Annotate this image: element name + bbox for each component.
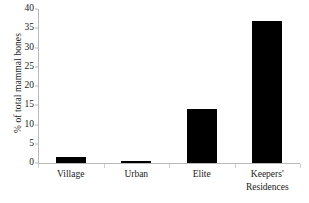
y-tick-label: 5 (29, 139, 34, 149)
bar (252, 21, 282, 163)
bar-slot (104, 9, 170, 163)
bar-series (38, 9, 300, 164)
x-tick-mark (300, 164, 301, 168)
y-tick-label: 10 (25, 120, 35, 130)
y-tick-label: 15 (25, 101, 35, 111)
x-tick-label-line: Village (38, 168, 104, 181)
bar (187, 109, 217, 163)
x-tick-label-line: Urban (104, 168, 170, 181)
y-axis-title: % of total mammal bones (13, 13, 23, 153)
x-axis-labels: VillageUrbanEliteKeepers'Residences (38, 168, 300, 202)
x-tick-label-line: Elite (169, 168, 235, 181)
bar (56, 157, 86, 163)
bar (121, 161, 151, 163)
y-tick-label: 20 (25, 81, 35, 91)
bar-slot (38, 9, 104, 163)
y-tick-label: 0 (29, 158, 34, 168)
x-tick-label-line: Keepers' (235, 168, 301, 181)
bar-slot (235, 9, 301, 163)
y-tick-label: 35 (25, 24, 35, 34)
x-tick-label-line: Residences (235, 181, 301, 194)
x-tick-label: Keepers'Residences (235, 168, 301, 193)
y-tick-label: 40 (25, 4, 35, 14)
bar-chart: % of total mammal bones 0510152025303540… (0, 0, 309, 203)
x-tick-label: Urban (104, 168, 170, 181)
plot-area: 0510152025303540 (38, 9, 300, 164)
x-tick-label: Village (38, 168, 104, 181)
y-tick-label: 25 (25, 62, 35, 72)
x-tick-label: Elite (169, 168, 235, 181)
y-tick-label: 30 (25, 43, 35, 53)
bar-slot (169, 9, 235, 163)
